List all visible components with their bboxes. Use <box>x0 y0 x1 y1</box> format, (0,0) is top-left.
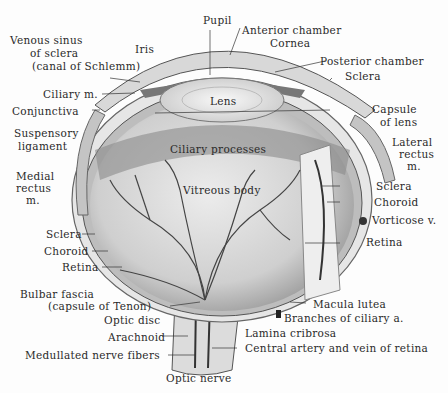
label-anterior-chamber: Anterior chamber <box>242 24 341 36</box>
label-lateral-rectus-1: Lateral <box>392 136 432 148</box>
label-cornea: Cornea <box>270 37 310 49</box>
label-medial-rectus-2: rectus <box>16 182 51 194</box>
label-arachnoid: Arachnoid <box>108 331 165 343</box>
label-branches-ciliary-a: Branches of ciliary a. <box>284 312 404 324</box>
label-sclera-right: Sclera <box>376 180 412 192</box>
label-venous-sinus-3: (canal of Schlemm) <box>32 60 140 72</box>
label-lateral-rectus-3: m. <box>407 160 421 172</box>
label-macula-lutea: Macula lutea <box>313 298 386 310</box>
label-ciliary-processes: Ciliary processes <box>170 143 266 155</box>
label-retina-right: Retina <box>366 236 403 248</box>
label-iris: Iris <box>135 43 154 55</box>
label-bulbar-fascia-2: (capsule of Tenon) <box>48 300 151 312</box>
label-conjunctiva: Conjunctiva <box>12 105 79 117</box>
label-medullated-nerve-fibers: Medullated nerve fibers <box>25 349 160 361</box>
label-pupil: Pupil <box>203 14 232 26</box>
label-choroid-right: Choroid <box>374 196 419 208</box>
label-venous-sinus-1: Venous sinus <box>10 34 83 46</box>
label-capsule-2: of lens <box>380 116 417 128</box>
label-central-artery-vein: Central artery and vein of retina <box>245 342 428 354</box>
label-venous-sinus-2: of sclera <box>30 47 78 59</box>
label-bulbar-fascia-1: Bulbar fascia <box>20 288 94 300</box>
label-sclera-top: Sclera <box>345 70 381 82</box>
label-suspensory-2: ligament <box>18 140 67 152</box>
label-lens: Lens <box>210 95 237 107</box>
label-suspensory-1: Suspensory <box>14 127 79 139</box>
label-ciliary-m: Ciliary m. <box>43 88 98 100</box>
label-retina-left: Retina <box>62 261 99 273</box>
label-lamina-cribrosa: Lamina cribrosa <box>245 327 336 339</box>
label-vitreous-body: Vitreous body <box>183 184 261 196</box>
eye-anatomy-diagram: Pupil Anterior chamber Cornea Posterior … <box>0 0 448 393</box>
label-choroid-left: Choroid <box>44 245 89 257</box>
label-optic-disc: Optic disc <box>104 314 160 326</box>
label-medial-rectus-1: Medial <box>16 170 54 182</box>
label-capsule-1: Capsule <box>372 103 417 115</box>
label-optic-nerve: Optic nerve <box>166 372 232 384</box>
label-sclera-left: Sclera <box>46 228 82 240</box>
label-lateral-rectus-2: rectus <box>399 148 434 160</box>
label-vorticose-v: Vorticose v. <box>372 214 436 226</box>
label-posterior-chamber: Posterior chamber <box>320 55 424 67</box>
label-medial-rectus-3: m. <box>26 194 40 206</box>
